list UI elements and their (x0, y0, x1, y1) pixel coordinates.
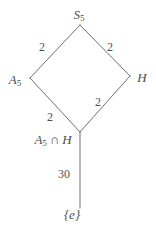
meet-a-subscript: 5 (42, 138, 47, 148)
edge-a5-meet (30, 78, 80, 132)
edge-h-meet (80, 76, 130, 132)
subgroup-lattice-diagram: S5 A5 H A5∩H {e} 2 2 2 2 30 (0, 0, 156, 227)
node-label-a5: A5 (8, 72, 22, 88)
edge-label-h-meet: 2 (95, 95, 101, 109)
node-a5-base: A (8, 72, 17, 87)
node-label-s5: S5 (74, 7, 86, 23)
node-s5-subscript: 5 (80, 13, 85, 23)
edge-label-meet-e: 30 (58, 167, 70, 181)
meet-a-base: A (33, 132, 42, 147)
meet-b: H (61, 132, 72, 147)
node-label-h: H (136, 70, 147, 85)
edge-label-s5-a5: 2 (39, 40, 45, 54)
edge-label-s5-h: 2 (107, 40, 113, 54)
node-label-trivial-group: {e} (64, 207, 81, 222)
edge-s5-h (80, 25, 130, 76)
edge-label-a5-meet: 2 (47, 110, 53, 124)
edge-s5-a5 (30, 25, 80, 78)
intersection-symbol: ∩ (50, 132, 59, 147)
node-label-a5-intersect-h: A5∩H (33, 132, 72, 148)
lattice-edges (30, 25, 130, 208)
node-a5-subscript: 5 (17, 78, 22, 88)
